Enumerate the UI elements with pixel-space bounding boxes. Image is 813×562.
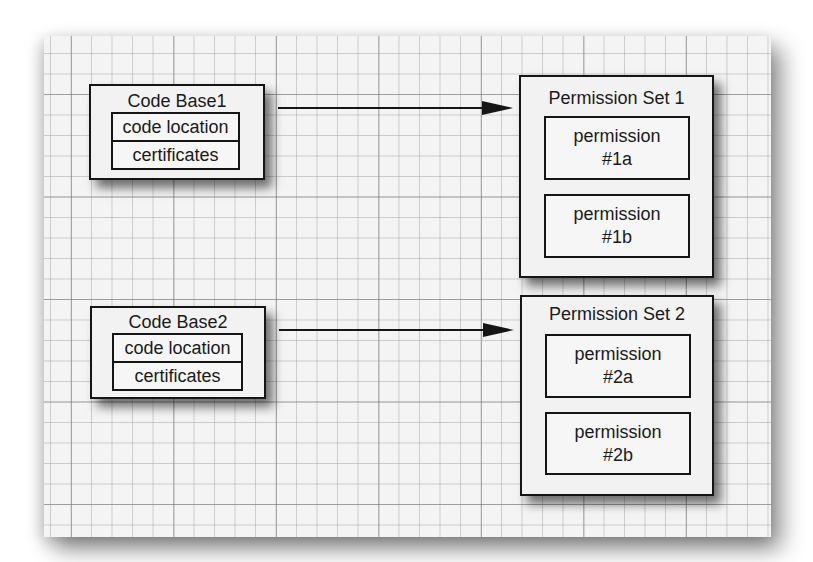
code-base-2-box: Code Base2 code location certificates — [90, 306, 266, 399]
code-location-field: code location — [113, 114, 238, 140]
code-base-2-fields: code location certificates — [112, 333, 243, 391]
permission-set-2-title: Permission Set 2 — [522, 303, 712, 325]
permission-2a-box: permission #2a — [545, 334, 691, 398]
arrow-codebase2-to-permset2 — [277, 319, 517, 341]
permission-id: #2a — [603, 366, 633, 389]
permission-set-2-box: Permission Set 2 permission #2a permissi… — [520, 295, 714, 496]
arrow-codebase1-to-permset1 — [276, 97, 516, 119]
code-base-1-fields: code location certificates — [111, 112, 240, 170]
permission-label: permission — [573, 203, 660, 226]
permission-set-1-box: Permission Set 1 permission #1a permissi… — [519, 75, 714, 278]
code-base-1-box: Code Base1 code location certificates — [89, 84, 265, 180]
permission-label: permission — [574, 343, 661, 366]
code-base-1-title: Code Base1 — [91, 90, 263, 112]
permission-2b-box: permission #2b — [545, 412, 691, 475]
permission-label: permission — [574, 421, 661, 444]
certificates-field: certificates — [114, 361, 241, 389]
code-location-field: code location — [114, 335, 241, 361]
permission-label: permission — [573, 125, 660, 148]
permission-id: #1b — [602, 226, 632, 249]
permission-id: #2b — [603, 444, 633, 467]
permission-1b-box: permission #1b — [544, 194, 690, 258]
permission-1a-box: permission #1a — [544, 116, 690, 180]
code-base-2-title: Code Base2 — [92, 311, 264, 333]
permission-id: #1a — [602, 148, 632, 171]
certificates-field: certificates — [113, 140, 238, 168]
permission-set-1-title: Permission Set 1 — [521, 87, 712, 109]
